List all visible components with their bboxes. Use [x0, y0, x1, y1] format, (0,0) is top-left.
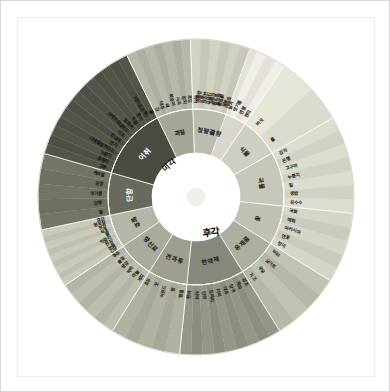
flavor-wheel[interactable]: 곡향곡물향구수한누룽지볶은쌀숭늉쌀겨엿기름찐쌀현미식물버섯풀곡물감자은행고구마누… — [36, 37, 356, 357]
descriptor-label: 작약 — [193, 291, 200, 300]
hub-center-dot — [188, 189, 205, 206]
screenshot-frame: 곡향곡물향구수한누룽지볶은쌀숭늉쌀겨엿기름찐쌀현미식물버섯풀곡물감자은행고구마누… — [0, 0, 390, 392]
category-label: 단향 — [125, 188, 134, 202]
descriptor-label: 박하 — [192, 95, 199, 104]
wheel-plate: 곡향곡물향구수한누룽지볶은쌀숭늉쌀겨엿기름찐쌀현미식물버섯풀곡물감자은행고구마누… — [17, 17, 375, 377]
flavor-wheel-svg[interactable]: 곡향곡물향구수한누룽지볶은쌀숭늉쌀겨엿기름찐쌀현미식물버섯풀곡물감자은행고구마누… — [36, 37, 356, 357]
descriptor-label: 포도 — [187, 95, 194, 104]
